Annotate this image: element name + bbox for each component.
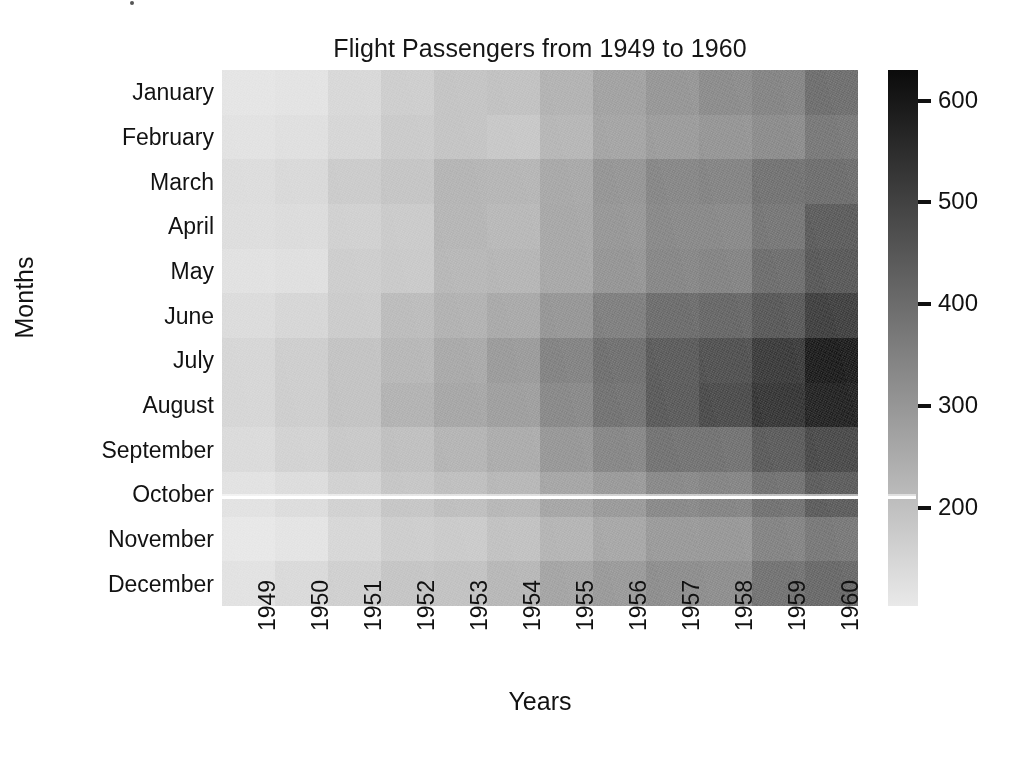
- heatmap-cell[interactable]: [805, 293, 858, 338]
- heatmap-cell[interactable]: [699, 472, 752, 517]
- heatmap-cell[interactable]: [540, 293, 593, 338]
- heatmap-cell[interactable]: [752, 70, 805, 115]
- heatmap-cell[interactable]: [593, 204, 646, 249]
- heatmap-cell[interactable]: [434, 115, 487, 160]
- heatmap-cell[interactable]: [434, 249, 487, 294]
- heatmap-cell[interactable]: [487, 70, 540, 115]
- heatmap-cell[interactable]: [434, 472, 487, 517]
- heatmap-cell[interactable]: [328, 472, 381, 517]
- heatmap-cell[interactable]: [381, 204, 434, 249]
- heatmap-cell[interactable]: [328, 383, 381, 428]
- heatmap-cell[interactable]: [646, 115, 699, 160]
- heatmap-cell[interactable]: [275, 159, 328, 204]
- heatmap-cell[interactable]: [381, 427, 434, 472]
- heatmap-cell[interactable]: [222, 204, 275, 249]
- heatmap-cell[interactable]: [381, 115, 434, 160]
- heatmap-cell[interactable]: [646, 427, 699, 472]
- heatmap-cell[interactable]: [487, 159, 540, 204]
- heatmap-cell[interactable]: [381, 293, 434, 338]
- heatmap-cell[interactable]: [487, 383, 540, 428]
- heatmap-plot-area[interactable]: [222, 70, 858, 606]
- heatmap-cell[interactable]: [752, 115, 805, 160]
- heatmap-cell[interactable]: [381, 472, 434, 517]
- heatmap-cell[interactable]: [646, 70, 699, 115]
- heatmap-cell[interactable]: [222, 517, 275, 562]
- heatmap-cell[interactable]: [222, 293, 275, 338]
- heatmap-cell[interactable]: [328, 427, 381, 472]
- heatmap-cell[interactable]: [487, 427, 540, 472]
- heatmap-cell[interactable]: [805, 159, 858, 204]
- heatmap-cell[interactable]: [805, 383, 858, 428]
- heatmap-cell[interactable]: [275, 115, 328, 160]
- heatmap-cell[interactable]: [540, 472, 593, 517]
- heatmap-cell[interactable]: [646, 204, 699, 249]
- heatmap-cell[interactable]: [434, 204, 487, 249]
- heatmap-cell[interactable]: [222, 159, 275, 204]
- heatmap-cell[interactable]: [487, 293, 540, 338]
- heatmap-cell[interactable]: [275, 427, 328, 472]
- heatmap-cell[interactable]: [381, 338, 434, 383]
- heatmap-cell[interactable]: [593, 383, 646, 428]
- heatmap-cell[interactable]: [487, 472, 540, 517]
- heatmap-cell[interactable]: [275, 204, 328, 249]
- heatmap-cell[interactable]: [328, 293, 381, 338]
- heatmap-cell[interactable]: [752, 249, 805, 294]
- heatmap-cell[interactable]: [699, 159, 752, 204]
- heatmap-cell[interactable]: [646, 159, 699, 204]
- heatmap-cell[interactable]: [752, 159, 805, 204]
- heatmap-cell[interactable]: [381, 517, 434, 562]
- heatmap-cell[interactable]: [222, 70, 275, 115]
- heatmap-cell[interactable]: [752, 517, 805, 562]
- heatmap-cell[interactable]: [434, 293, 487, 338]
- heatmap-cell[interactable]: [222, 115, 275, 160]
- heatmap-cell[interactable]: [593, 249, 646, 294]
- heatmap-cell[interactable]: [275, 383, 328, 428]
- heatmap-cell[interactable]: [540, 70, 593, 115]
- heatmap-cell[interactable]: [275, 249, 328, 294]
- heatmap-cell[interactable]: [593, 427, 646, 472]
- heatmap-cell[interactable]: [805, 338, 858, 383]
- heatmap-cell[interactable]: [487, 517, 540, 562]
- heatmap-cell[interactable]: [540, 383, 593, 428]
- heatmap-cell[interactable]: [593, 517, 646, 562]
- heatmap-cell[interactable]: [381, 159, 434, 204]
- heatmap-cell[interactable]: [540, 517, 593, 562]
- heatmap-cell[interactable]: [752, 338, 805, 383]
- heatmap-cell[interactable]: [222, 338, 275, 383]
- heatmap-cell[interactable]: [487, 115, 540, 160]
- heatmap-cell[interactable]: [752, 427, 805, 472]
- heatmap-cell[interactable]: [434, 383, 487, 428]
- heatmap-cell[interactable]: [328, 159, 381, 204]
- heatmap-cell[interactable]: [699, 338, 752, 383]
- heatmap-cell[interactable]: [593, 115, 646, 160]
- heatmap-cell[interactable]: [646, 293, 699, 338]
- heatmap-cell[interactable]: [805, 472, 858, 517]
- heatmap-cell[interactable]: [434, 70, 487, 115]
- heatmap-cell[interactable]: [222, 472, 275, 517]
- heatmap-cell[interactable]: [805, 427, 858, 472]
- colorbar[interactable]: [888, 70, 918, 606]
- heatmap-cell[interactable]: [699, 517, 752, 562]
- heatmap-cell[interactable]: [699, 115, 752, 160]
- heatmap-cell[interactable]: [752, 204, 805, 249]
- heatmap-cell[interactable]: [328, 115, 381, 160]
- heatmap-cell[interactable]: [222, 249, 275, 294]
- heatmap-cell[interactable]: [434, 517, 487, 562]
- heatmap-cell[interactable]: [646, 472, 699, 517]
- heatmap-cell[interactable]: [699, 427, 752, 472]
- heatmap-cell[interactable]: [275, 472, 328, 517]
- heatmap-cell[interactable]: [275, 517, 328, 562]
- heatmap-cell[interactable]: [646, 517, 699, 562]
- heatmap-cell[interactable]: [646, 249, 699, 294]
- heatmap-cell[interactable]: [328, 517, 381, 562]
- heatmap-cell[interactable]: [699, 249, 752, 294]
- heatmap-cell[interactable]: [222, 427, 275, 472]
- heatmap-cell[interactable]: [540, 427, 593, 472]
- heatmap-cell[interactable]: [540, 249, 593, 294]
- heatmap-cell[interactable]: [434, 338, 487, 383]
- heatmap-cell[interactable]: [752, 472, 805, 517]
- heatmap-cell[interactable]: [487, 338, 540, 383]
- heatmap-cell[interactable]: [699, 70, 752, 115]
- heatmap-cell[interactable]: [328, 338, 381, 383]
- heatmap-cell[interactable]: [752, 293, 805, 338]
